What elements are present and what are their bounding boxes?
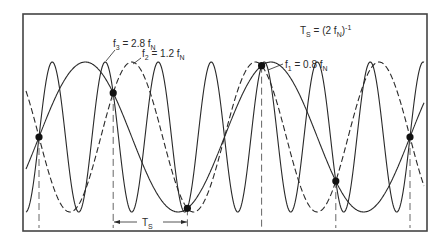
- f3-leader: [106, 50, 115, 61]
- f2-label: f2 = 1.2 fN: [142, 48, 185, 61]
- ts-span-label: TS: [142, 217, 153, 230]
- f1-leader: [268, 64, 283, 70]
- f2-leader: [133, 58, 141, 64]
- curve-f3: [26, 62, 424, 212]
- ts-definition-label: TS = (2 fN)-1: [300, 24, 351, 38]
- sample-point: [35, 133, 42, 140]
- sample-point: [184, 205, 191, 212]
- sample-point: [258, 62, 265, 69]
- sample-guide-lines: [39, 66, 410, 228]
- aliasing-diagram: TS = (2 fN)-1 f1 = 0.8 fN f3 = 2.8 fN f2…: [0, 0, 442, 246]
- sample-point: [332, 177, 339, 184]
- sample-point: [406, 133, 413, 140]
- signal-curves: [26, 62, 424, 212]
- sample-point: [110, 89, 117, 96]
